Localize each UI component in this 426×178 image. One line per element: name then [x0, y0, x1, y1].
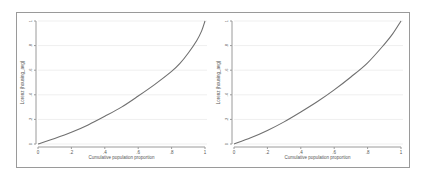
lorenz-curve-line [38, 21, 205, 144]
x-axis-label: Cumulative population proportion [284, 155, 351, 160]
x-tick-label: .8 [170, 150, 174, 155]
y-tick-label: .4 [224, 92, 229, 96]
x-tick-label: .2 [266, 150, 270, 155]
y-tick-label: .8 [28, 43, 33, 47]
left-lorenz-chart: 0.2.4.6.810.2.4.6.81Cumulative populatio… [17, 13, 214, 167]
x-tick-label: .8 [366, 150, 370, 155]
y-tick-label: .6 [28, 68, 33, 72]
y-axis-label: Lorenz (housing_avg) [20, 60, 25, 104]
x-tick-label: 0 [233, 150, 236, 155]
y-tick-label: .2 [224, 117, 229, 121]
x-axis-label: Cumulative population proportion [88, 155, 155, 160]
y-tick-label: 1 [28, 19, 33, 22]
x-tick-label: 1 [400, 150, 403, 155]
x-tick-label: .2 [70, 150, 74, 155]
y-tick-label: 0 [28, 142, 33, 145]
y-tick-label: .2 [28, 117, 33, 121]
chart-frame: 0.2.4.6.810.2.4.6.81Cumulative populatio… [16, 12, 410, 168]
y-tick-label: .4 [28, 92, 33, 96]
y-tick-label: .6 [224, 68, 229, 72]
y-tick-label: 1 [224, 19, 229, 22]
y-tick-label: .8 [224, 43, 229, 47]
y-tick-label: 0 [224, 142, 229, 145]
y-axis-label: Lorenz (housing_avg) [216, 60, 221, 104]
lorenz-curve-line [234, 21, 401, 144]
right-lorenz-chart: 0.2.4.6.810.2.4.6.81Cumulative populatio… [214, 13, 411, 167]
x-tick-label: 1 [204, 150, 207, 155]
x-tick-label: 0 [37, 150, 40, 155]
